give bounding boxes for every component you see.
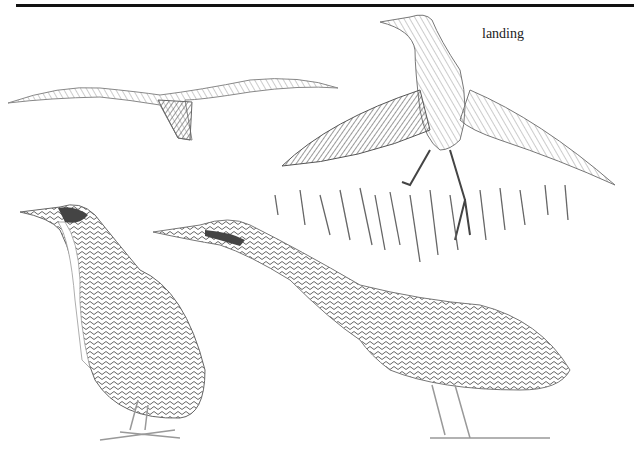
bird-sketches (0, 0, 634, 463)
landing-bittern (282, 15, 615, 240)
illustration-page: landing (0, 0, 634, 463)
standing-bittern (20, 205, 205, 440)
flying-bittern (8, 79, 338, 140)
reeds (275, 185, 568, 262)
stalking-bittern (153, 220, 570, 438)
